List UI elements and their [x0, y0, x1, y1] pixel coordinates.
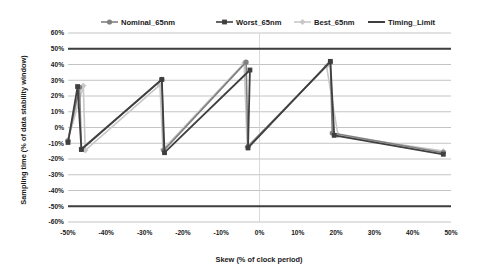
data-point-marker [246, 146, 251, 151]
x-tick-label: 40% [406, 229, 419, 236]
x-tick-label: -30% [137, 229, 153, 236]
legend-label: Worst_65nm [236, 18, 282, 27]
x-tick-label: 0% [255, 229, 265, 236]
x-tick-label: -50% [60, 229, 76, 236]
y-tick-label: 20% [51, 92, 64, 99]
legend-label: Best_65nm [314, 18, 355, 27]
y-tick-label: -60% [49, 218, 65, 225]
data-point-marker [79, 147, 84, 152]
sampling-time-vs-skew-chart: Nominal_65nmWorst_65nmBest_65nmTiming_Li… [0, 0, 478, 279]
data-point-marker [222, 20, 227, 25]
data-point-marker [441, 152, 446, 157]
x-tick-label: 30% [368, 229, 381, 236]
x-tick-label: -20% [175, 229, 191, 236]
y-tick-label: 50% [51, 45, 64, 52]
y-tick-label: -20% [49, 155, 65, 162]
y-tick-label: 10% [51, 108, 64, 115]
chart-background [0, 0, 478, 279]
x-tick-label: -40% [99, 229, 115, 236]
data-point-marker [66, 140, 71, 145]
data-point-marker [162, 150, 167, 155]
data-point-marker [248, 68, 253, 73]
y-tick-label: -40% [49, 187, 65, 194]
x-tick-label: 10% [291, 229, 304, 236]
x-tick-label: 20% [329, 229, 342, 236]
legend-label: Nominal_65nm [121, 18, 175, 27]
data-point-marker [328, 59, 333, 64]
x-axis-title: Skew (% of clock period) [215, 255, 303, 264]
y-tick-label: 60% [51, 29, 64, 36]
legend-label: Timing_Limit [388, 18, 436, 27]
y-tick-label: 0% [54, 124, 64, 131]
chart-container: Nominal_65nmWorst_65nmBest_65nmTiming_Li… [0, 0, 478, 279]
y-axis-title: Sampling time (% of data stability windo… [19, 55, 28, 205]
data-point-marker [243, 60, 248, 65]
y-tick-label: -50% [49, 203, 65, 210]
y-tick-label: 40% [51, 61, 64, 68]
x-tick-label: -10% [213, 229, 229, 236]
data-point-marker [107, 19, 112, 24]
data-point-marker [332, 133, 337, 138]
y-tick-label: -30% [49, 171, 65, 178]
data-point-marker [75, 84, 80, 89]
x-tick-label: 50% [444, 229, 457, 236]
y-tick-label: -10% [49, 140, 65, 147]
data-point-marker [159, 77, 164, 82]
y-tick-label: 30% [51, 77, 64, 84]
